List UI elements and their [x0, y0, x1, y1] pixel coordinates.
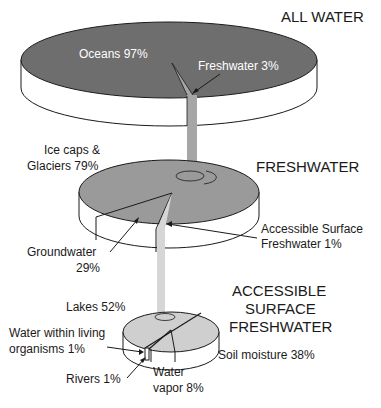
label-oceans: Oceans 97% [79, 47, 148, 61]
freshwater-disk-top [79, 160, 259, 224]
label-ice-caps-2: Glaciers 79% [27, 159, 99, 173]
label-groundwater-2: 29% [76, 261, 100, 275]
title-freshwater: FRESHWATER [256, 158, 359, 175]
label-accessible-2: Freshwater 1% [261, 237, 342, 251]
label-ice-caps-1: Ice caps & [44, 143, 100, 157]
water-distribution-diagram: ALL WATER Oceans 97% Freshwater 3% Ice c… [0, 0, 381, 408]
label-soil: Soil moisture 38% [218, 348, 315, 362]
accessible-disk [123, 312, 219, 370]
title-accessible-2: SURFACE [245, 300, 316, 317]
label-living-2: organisms 1% [9, 342, 85, 356]
title-accessible-1: ACCESSIBLE [232, 282, 326, 299]
title-all-water: ALL WATER [281, 8, 364, 25]
living-sliver [145, 348, 149, 360]
label-accessible-1: Accessible Surface [261, 222, 363, 236]
label-lakes: Lakes 52% [66, 300, 126, 314]
label-groundwater-1: Groundwater [27, 245, 96, 259]
label-living-1: Water within living [9, 326, 105, 340]
all-water-disk [21, 22, 317, 126]
stem-mid-shaft [157, 229, 165, 313]
title-accessible-3: FRESHWATER [229, 318, 332, 335]
label-freshwater: Freshwater 3% [198, 59, 279, 73]
label-vapor-2: vapor 8% [153, 381, 204, 395]
label-rivers: Rivers 1% [66, 372, 121, 386]
label-vapor-1: Water [153, 365, 185, 379]
